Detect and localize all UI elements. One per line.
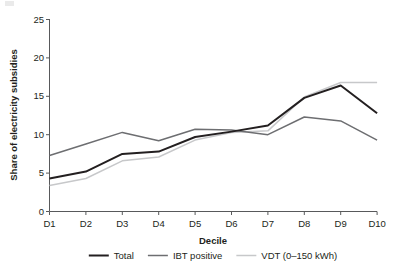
x-tick-label: D3 [116,218,128,229]
figure-container: Share of electricity subsidies 0 5 10 15… [0,0,402,272]
y-tick-label: 25 [33,14,44,25]
chart-legend: TotalIBT positiveVDT (0–150 kWh) [89,250,337,261]
y-axis-tick-labels: 0 5 10 15 20 25 [33,14,44,217]
x-tick-label: D1 [43,218,55,229]
x-tick-label: D6 [225,218,237,229]
x-tick-label: D8 [298,218,310,229]
legend-label: VDT (0–150 kWh) [261,250,337,261]
y-axis-title: Share of electricity subsidies [8,49,19,180]
x-tick-label: D2 [80,218,92,229]
x-tick-label: D4 [153,218,165,229]
y-tick-label: 5 [39,167,44,178]
y-tick-label: 0 [39,206,44,217]
x-tick-label: D5 [189,218,201,229]
legend-label: IBT positive [173,250,222,261]
y-tick-label: 15 [33,90,44,101]
legend-label: Total [114,250,134,261]
x-axis-tick-labels: D1 D2 D3 D4 D5 D6 D7 D8 D9 D10 [43,218,385,229]
y-tick-label: 10 [33,129,44,140]
x-tick-label: D10 [368,218,385,229]
line-chart: Share of electricity subsidies 0 5 10 15… [0,0,402,272]
series-line-total [50,86,378,179]
series-group [50,82,378,185]
x-tick-label: D7 [262,218,274,229]
x-tick-label: D9 [335,218,347,229]
y-axis [46,19,50,212]
x-axis-title: Decile [199,235,227,246]
x-axis [50,212,378,216]
y-tick-label: 20 [33,52,44,63]
